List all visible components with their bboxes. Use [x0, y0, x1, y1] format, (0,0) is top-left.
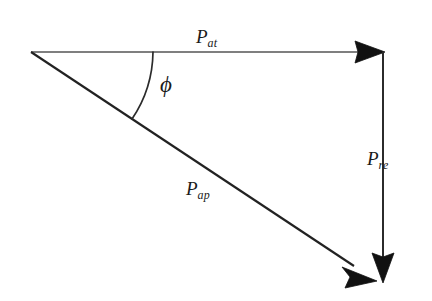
vector-label-p-ap-subscript: ap: [198, 188, 210, 202]
angle-arc-phi: [132, 52, 153, 119]
vector-p-re-arrowhead: [372, 253, 394, 283]
vector-p-ap-shaft: [31, 52, 354, 266]
vector-label-p-re-subscript: re: [379, 158, 389, 172]
power-triangle-diagram: Pat Pre Pap ϕ: [0, 0, 432, 301]
vector-label-p-ap: Pap: [186, 179, 210, 201]
vector-label-p-at: Pat: [196, 27, 217, 49]
vector-label-p-at-subscript: at: [208, 36, 218, 50]
vector-label-p-ap-base: P: [186, 178, 198, 199]
angle-label-phi: ϕ: [160, 73, 172, 96]
vector-p-at-arrowhead: [355, 41, 385, 63]
vector-p-ap-arrowhead: [342, 267, 377, 288]
vector-label-p-re: Pre: [367, 149, 389, 171]
vector-label-p-at-base: P: [196, 26, 208, 47]
vector-label-p-re-base: P: [367, 148, 379, 169]
